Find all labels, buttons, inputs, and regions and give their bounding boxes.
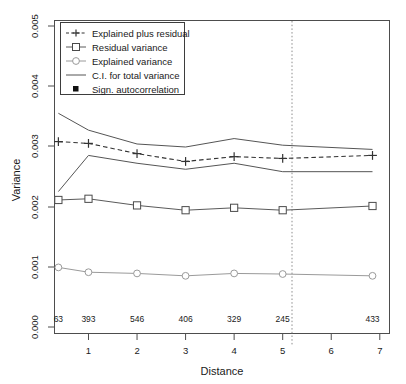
- legend-label: Residual variance: [92, 42, 168, 53]
- sample-count-label: 433: [365, 314, 379, 324]
- data-point-plus: [133, 149, 142, 158]
- data-point-square: [85, 195, 92, 202]
- x-axis: 1234567: [86, 334, 383, 356]
- data-point-plus: [181, 157, 190, 166]
- y-tick-label: 0.004: [29, 74, 40, 98]
- x-tick-label: 5: [280, 345, 285, 356]
- y-tick-label: 0.002: [29, 195, 40, 219]
- plot-data-layer: [54, 113, 377, 279]
- data-point-square: [182, 207, 189, 214]
- sample-count-label: 63: [54, 314, 64, 324]
- y-tick-label: 0.000: [29, 315, 40, 339]
- data-point-circle: [231, 270, 238, 277]
- x-tick-label: 1: [86, 345, 91, 356]
- y-axis: 0.005 0.004 0.003 0.002 0.001 0.000: [29, 14, 54, 339]
- x-tick-label: 7: [377, 345, 382, 356]
- data-point-square: [231, 204, 238, 211]
- data-point-circle: [55, 264, 62, 271]
- legend-label: Sign. autocorrelation: [92, 84, 179, 95]
- square-icon: [73, 44, 80, 51]
- data-point-plus: [278, 154, 287, 163]
- residual-variance-line: [58, 199, 372, 210]
- data-point-circle: [182, 272, 189, 279]
- sample-count-label: 546: [130, 314, 144, 324]
- sample-count-label: 393: [81, 314, 95, 324]
- data-point-circle: [369, 272, 376, 279]
- data-point-circle: [85, 269, 92, 276]
- filled-square-icon: [73, 86, 79, 92]
- data-point-circle: [134, 270, 141, 277]
- circle-icon: [73, 58, 80, 65]
- ci-upper-line: [58, 113, 372, 149]
- y-axis-title: Variance: [10, 159, 22, 202]
- chart-legend: Explained plus residual Residual varianc…: [61, 23, 190, 95]
- data-point-square: [369, 202, 376, 209]
- y-tick-label: 0.005: [29, 14, 40, 38]
- x-tick-label: 6: [329, 345, 334, 356]
- sample-count-label: 406: [178, 314, 192, 324]
- data-point-plus: [54, 137, 63, 146]
- data-point-square: [55, 196, 62, 203]
- x-tick-label: 4: [231, 345, 236, 356]
- explained-variance-line: [58, 267, 372, 275]
- legend-label: C.I. for total variance: [92, 70, 180, 81]
- x-tick-label: 2: [134, 345, 139, 356]
- data-point-square: [279, 207, 286, 214]
- y-tick-label: 0.001: [29, 255, 40, 279]
- data-point-plus: [230, 152, 239, 161]
- sample-count-label: 245: [276, 314, 290, 324]
- y-tick-label: 0.003: [29, 134, 40, 158]
- legend-label: Explained plus residual: [92, 28, 190, 39]
- x-axis-title: Distance: [201, 365, 244, 377]
- ci-lower-line: [58, 155, 372, 191]
- legend-label: Explained variance: [92, 56, 172, 67]
- variance-distance-chart: Variance Distance 0.005 0.004 0.003 0.00…: [0, 0, 406, 384]
- data-point-circle: [279, 271, 286, 278]
- data-point-plus: [84, 139, 93, 148]
- data-point-plus: [368, 151, 377, 160]
- x-tick-label: 3: [183, 345, 188, 356]
- sample-count-labels: 63393546406329245433: [54, 314, 380, 324]
- sample-count-label: 329: [227, 314, 241, 324]
- data-point-square: [133, 202, 140, 209]
